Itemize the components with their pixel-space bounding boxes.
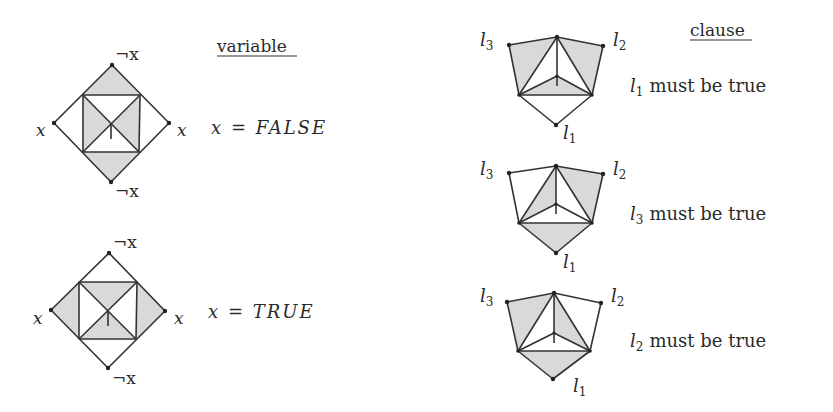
variable-gadget-true: ¬x x x ¬x [33, 232, 184, 388]
neg-x-label-bottom: ¬x [115, 181, 139, 201]
l3-label-2: l3 [480, 158, 493, 182]
neg-x-label-top: ¬x [115, 44, 139, 64]
neg-x-label-bottom-2: ¬x [112, 368, 136, 388]
l1-label: l1 [563, 122, 576, 146]
l2-label-3: l2 [611, 285, 624, 309]
l1-label-3: l1 [573, 375, 586, 399]
l3-label-3: l3 [480, 285, 493, 309]
x-label-right: x [177, 120, 187, 140]
l2-label-2: l2 [613, 158, 626, 182]
variable-gadget-false: ¬x x x ¬x [36, 44, 187, 201]
l2-label: l2 [613, 29, 626, 53]
state-true: x = TRUE [208, 301, 315, 322]
reduction-diagram: ¬x x x ¬x variable x = FALSE ¬x x x ¬x x… [0, 0, 833, 412]
x-label-left-2: x [33, 308, 43, 328]
clause-gadget-l3: l3 l2 l1 [480, 158, 626, 275]
l1-label-2: l1 [563, 251, 576, 275]
clause-gadget-l2: l3 l2 l1 [480, 285, 624, 399]
clause-2-caption: l3must be true [630, 203, 766, 227]
l3-label: l3 [480, 29, 493, 53]
clause-1-caption: l1must be true [630, 75, 766, 99]
neg-x-label-top-2: ¬x [113, 232, 137, 252]
state-false: x = FALSE [211, 117, 327, 138]
clause-3-caption: l2must be true [630, 330, 766, 354]
variable-heading: variable [216, 36, 287, 56]
clause-heading: clause [690, 20, 745, 40]
clause-gadget-l1: l3 l2 l1 [480, 29, 626, 146]
x-label-left: x [36, 120, 46, 140]
x-label-right-2: x [174, 308, 184, 328]
